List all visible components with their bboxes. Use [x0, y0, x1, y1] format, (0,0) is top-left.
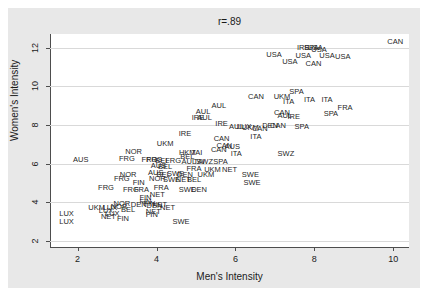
- y-axis-tick-label: 10: [30, 79, 40, 93]
- x-axis-tick-label: 6: [233, 254, 238, 264]
- plot-area: CANIRESPAUSAUSAUSAUSAUSAUSAUSACANSPACANU…: [50, 34, 409, 247]
- data-point-label: ITA: [231, 148, 242, 157]
- data-point-label: ITA: [304, 95, 315, 104]
- x-axis-tick-label: 10: [388, 254, 398, 264]
- data-point-label: LUX: [59, 216, 74, 225]
- x-axis-tick: [78, 247, 79, 251]
- data-point-label: FIN: [117, 213, 129, 222]
- data-point-label: SWE: [172, 216, 189, 225]
- data-point-label: ITA: [283, 96, 294, 105]
- chart-title: r=.89: [50, 16, 409, 27]
- data-point-label: DEN: [147, 200, 163, 209]
- data-point-label: AUL: [197, 112, 212, 121]
- data-point-label: UKM: [157, 139, 174, 148]
- data-point-label: USA: [266, 50, 281, 59]
- x-axis-tick: [235, 247, 236, 251]
- x-axis-tick: [314, 247, 315, 251]
- data-point-label: FRG: [98, 183, 114, 192]
- data-point-label: CAN: [306, 59, 322, 68]
- gridline-horizontal: [50, 86, 409, 87]
- y-axis-tick-label: 4: [30, 195, 40, 209]
- data-point-label: FRA: [338, 102, 353, 111]
- data-point-label: USA: [319, 50, 334, 59]
- data-point-label: IRE: [215, 119, 228, 128]
- data-point-label: FRG: [119, 153, 135, 162]
- data-point-label: SWE: [243, 178, 260, 187]
- data-point-label: FIN: [146, 209, 158, 218]
- x-axis-tick-label: 4: [154, 254, 159, 264]
- data-point-label: FRG: [114, 173, 130, 182]
- gridline-horizontal: [50, 48, 409, 49]
- data-point-label: NET: [222, 165, 237, 174]
- x-axis-tick: [157, 247, 158, 251]
- data-point-label: CAN: [248, 91, 264, 100]
- data-point-label: CAN: [270, 120, 286, 129]
- data-point-label: SWZ: [278, 148, 295, 157]
- x-axis-tick: [393, 247, 394, 251]
- data-point-label: ITA: [321, 94, 332, 103]
- data-point-label: SPA: [289, 86, 303, 95]
- y-axis-tick-label: 2: [30, 234, 40, 248]
- x-axis-tick-label: 2: [75, 254, 80, 264]
- data-point-label: CAN: [387, 36, 403, 45]
- y-axis-tick-label: 8: [30, 118, 40, 132]
- data-point-label: AUS: [73, 154, 88, 163]
- data-point-label: ITA: [250, 132, 261, 141]
- data-point-label: DEN: [191, 184, 207, 193]
- x-axis-title: Men's Intensity: [50, 271, 409, 282]
- gridline-horizontal: [50, 241, 409, 242]
- data-point-label: USA: [335, 51, 350, 60]
- data-point-label: BEL: [187, 174, 201, 183]
- data-point-label: SPA: [294, 121, 308, 130]
- data-point-label: USA: [282, 57, 297, 66]
- y-axis-tick-label: 6: [30, 157, 40, 171]
- data-point-label: CAN: [211, 145, 227, 154]
- data-point-label: NET: [101, 212, 116, 221]
- x-axis-tick-label: 8: [312, 254, 317, 264]
- y-axis-tick-label: 12: [30, 41, 40, 55]
- figure-background: r=.89 Women's Intensity Men's Intensity …: [8, 8, 420, 288]
- data-point-label: SPA: [324, 109, 338, 118]
- data-point-label: NET: [150, 189, 165, 198]
- data-point-label: IRE: [179, 129, 192, 138]
- scatter-plot-screenshot: r=.89 Women's Intensity Men's Intensity …: [0, 0, 428, 303]
- data-point-label: AUL: [212, 100, 227, 109]
- data-point-label: IRE: [288, 111, 301, 120]
- x-axis-line: [50, 247, 409, 248]
